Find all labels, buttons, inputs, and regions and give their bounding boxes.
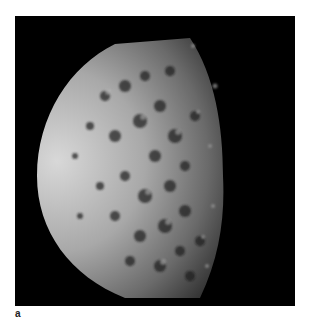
moon-image	[15, 16, 295, 306]
panel-label: a	[15, 309, 21, 319]
moon-photo	[15, 16, 295, 306]
